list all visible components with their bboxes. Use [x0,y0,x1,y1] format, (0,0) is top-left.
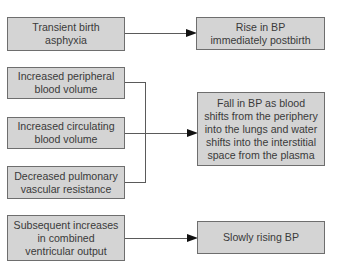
cause-text-line: Decreased pulmonary [14,170,118,183]
cause-text-line: in combined [14,232,119,245]
cause-box-subsequent-increases-ventricular-output: Subsequent increases in combined ventric… [7,215,125,261]
cause-text-line: Increased peripheral [18,70,115,83]
cause-text-line: blood volume [17,133,114,146]
effect-text-line: immediately postbirth [210,34,310,47]
connector-bracket-vertical [145,82,146,183]
cause-text-line: Subsequent increases [14,219,119,232]
cause-text-line: ventricular output [14,245,119,258]
cause-text-line: Increased circulating [17,120,114,133]
effect-text-line: Slowly rising BP [223,231,299,244]
effect-text-line: space from the plasma [204,149,318,162]
cause-text-line: vascular resistance [14,183,118,196]
connector-c1-e1 [124,33,187,34]
effect-box-rise-in-bp: Rise in BP immediately postbirth [196,17,325,50]
effect-text-line: Fall in BP as blood [204,97,318,110]
connector-c4-bracket [124,182,146,183]
cause-text-line: blood volume [18,83,115,96]
effect-text-line: Rise in BP [210,21,310,34]
cause-box-increased-circulating-blood-volume: Increased circulating blood volume [7,117,125,149]
cause-box-transient-birth-asphyxia: Transient birth asphyxia [7,17,125,51]
connector-c3-e2 [124,133,188,134]
effect-box-slowly-rising-bp: Slowly rising BP [197,221,325,254]
cause-box-decreased-pulmonary-vascular-resistance: Decreased pulmonary vascular resistance [7,166,125,199]
connector-c2-bracket [124,82,146,83]
effect-box-fall-in-bp: Fall in BP as blood shifts from the peri… [197,92,325,166]
effect-text-line: shifts from the periphery [204,110,318,123]
cause-box-increased-peripheral-blood-volume: Increased peripheral blood volume [7,67,125,99]
cause-text-line: asphyxia [32,34,99,47]
effect-text-line: shifts into the interstitial [204,136,318,149]
connector-c5-e3 [124,238,188,239]
cause-text-line: Transient birth [32,21,99,34]
effect-text-line: into the lungs and water [204,123,318,136]
